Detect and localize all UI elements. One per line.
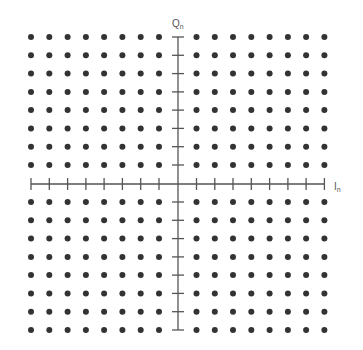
- constellation-point: [248, 272, 254, 278]
- constellation-point: [303, 52, 309, 58]
- constellation-point: [101, 309, 107, 315]
- constellation-point: [83, 52, 89, 58]
- constellation-point: [101, 254, 107, 260]
- constellation-point: [119, 144, 125, 150]
- constellation-point: [119, 236, 125, 242]
- constellation-point: [321, 34, 327, 40]
- constellation-point: [156, 34, 162, 40]
- constellation-point: [156, 309, 162, 315]
- constellation-point: [212, 89, 218, 95]
- quadrature-label-subscript: n: [180, 23, 184, 30]
- constellation-point: [285, 71, 291, 77]
- constellation-point: [156, 272, 162, 278]
- constellation-point: [285, 272, 291, 278]
- constellation-point: [65, 89, 71, 95]
- constellation-point: [303, 71, 309, 77]
- constellation-point: [285, 52, 291, 58]
- constellation-point: [119, 309, 125, 315]
- axes: [31, 37, 324, 330]
- constellation-point: [46, 290, 52, 296]
- constellation-point: [230, 162, 236, 168]
- constellation-point: [65, 71, 71, 77]
- constellation-point: [101, 290, 107, 296]
- quadrature-axis-label: Qn: [172, 18, 184, 30]
- constellation-point: [138, 254, 144, 260]
- constellation-point: [267, 290, 273, 296]
- constellation-point: [303, 236, 309, 242]
- constellation-point: [156, 217, 162, 223]
- constellation-point: [119, 34, 125, 40]
- constellation-point: [28, 125, 34, 131]
- constellation-point: [156, 107, 162, 113]
- constellation-point: [119, 254, 125, 260]
- constellation-point: [303, 162, 309, 168]
- constellation-point: [156, 71, 162, 77]
- constellation-point: [119, 107, 125, 113]
- constellation-point: [285, 107, 291, 113]
- constellation-point: [303, 327, 309, 333]
- constellation-point: [46, 71, 52, 77]
- constellation-point: [194, 272, 200, 278]
- constellation-point: [248, 199, 254, 205]
- constellation-point: [303, 272, 309, 278]
- constellation-point: [138, 71, 144, 77]
- constellation-point: [101, 162, 107, 168]
- constellation-point: [65, 236, 71, 242]
- constellation-point: [65, 254, 71, 260]
- constellation-point: [101, 52, 107, 58]
- constellation-point: [46, 327, 52, 333]
- constellation-point: [212, 272, 218, 278]
- constellation-point: [285, 217, 291, 223]
- constellation-point: [65, 309, 71, 315]
- constellation-point: [65, 52, 71, 58]
- constellation-point: [321, 89, 327, 95]
- constellation-point: [248, 52, 254, 58]
- constellation-point: [46, 89, 52, 95]
- constellation-point: [46, 272, 52, 278]
- constellation-point: [101, 217, 107, 223]
- constellation-point: [267, 125, 273, 131]
- constellation-point: [83, 162, 89, 168]
- constellation-point: [321, 71, 327, 77]
- constellation-point: [101, 125, 107, 131]
- constellation-point: [156, 199, 162, 205]
- constellation-point: [138, 199, 144, 205]
- constellation-point: [156, 162, 162, 168]
- constellation-point: [230, 327, 236, 333]
- constellation-point: [212, 199, 218, 205]
- constellation-point: [230, 290, 236, 296]
- constellation-point: [212, 290, 218, 296]
- constellation-point: [248, 217, 254, 223]
- constellation-point: [156, 236, 162, 242]
- constellation-point: [194, 71, 200, 77]
- constellation-point: [28, 254, 34, 260]
- constellation-point: [83, 107, 89, 113]
- constellation-point: [138, 309, 144, 315]
- constellation-point: [248, 327, 254, 333]
- constellation-point: [230, 309, 236, 315]
- constellation-point: [194, 52, 200, 58]
- constellation-point: [248, 89, 254, 95]
- constellation-point: [65, 125, 71, 131]
- constellation-point: [28, 290, 34, 296]
- constellation-point: [267, 144, 273, 150]
- constellation-point: [230, 236, 236, 242]
- constellation-point: [285, 162, 291, 168]
- constellation-point: [65, 107, 71, 113]
- constellation-point: [138, 290, 144, 296]
- constellation-point: [285, 125, 291, 131]
- constellation-point: [248, 107, 254, 113]
- constellation-point: [138, 272, 144, 278]
- constellation-point: [119, 327, 125, 333]
- constellation-point: [194, 236, 200, 242]
- constellation-point: [28, 34, 34, 40]
- constellation-point: [83, 199, 89, 205]
- constellation-point: [212, 125, 218, 131]
- constellation-point: [28, 144, 34, 150]
- constellation-point: [65, 290, 71, 296]
- constellation-point: [156, 52, 162, 58]
- constellation-point: [285, 34, 291, 40]
- constellation-point: [101, 107, 107, 113]
- constellation-point: [28, 236, 34, 242]
- constellation-point: [267, 254, 273, 260]
